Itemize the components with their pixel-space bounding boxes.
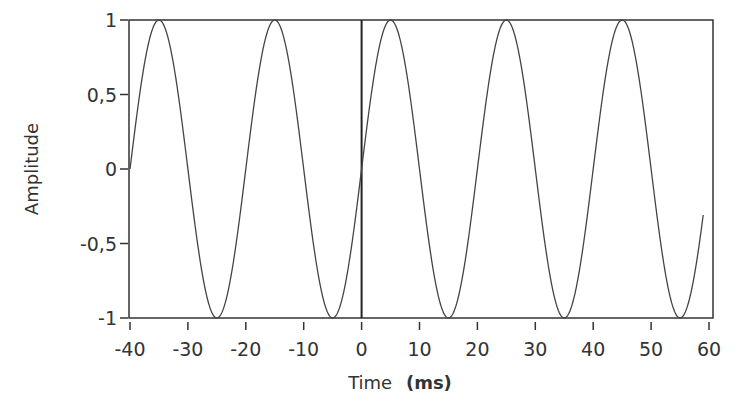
y-tick-label: -0,5: [80, 233, 117, 255]
y-tick-label: -1: [98, 307, 117, 329]
y-axis-ticks: 10,50-0,5-1: [80, 9, 128, 329]
x-tick-label: -10: [288, 338, 319, 360]
sine-wave-line: [130, 20, 703, 318]
y-tick-label: 0: [105, 158, 117, 180]
x-tick-label: -40: [114, 338, 145, 360]
x-tick-label: 50: [639, 338, 663, 360]
x-axis-ticks: -40-30-20-100102030405060: [114, 322, 721, 360]
x-tick-label: 40: [581, 338, 605, 360]
x-tick-label: 10: [407, 338, 431, 360]
x-tick-label: -30: [172, 338, 203, 360]
x-axis-label-unit: (ms): [406, 372, 452, 393]
y-tick-label: 1: [105, 9, 117, 31]
x-tick-label: 60: [697, 338, 721, 360]
plot-frame: [129, 20, 713, 318]
y-axis-label: Amplitude: [21, 123, 42, 215]
x-tick-label: 30: [523, 338, 547, 360]
x-tick-label: -20: [230, 338, 261, 360]
sine-wave-chart: 10,50-0,5-1 -40-30-20-100102030405060 Am…: [0, 0, 755, 417]
x-tick-label: 0: [356, 338, 368, 360]
x-tick-label: 20: [465, 338, 489, 360]
x-axis-label: Time (ms): [347, 372, 452, 393]
y-tick-label: 0,5: [87, 84, 117, 106]
x-axis-label-text: Time: [347, 372, 392, 393]
